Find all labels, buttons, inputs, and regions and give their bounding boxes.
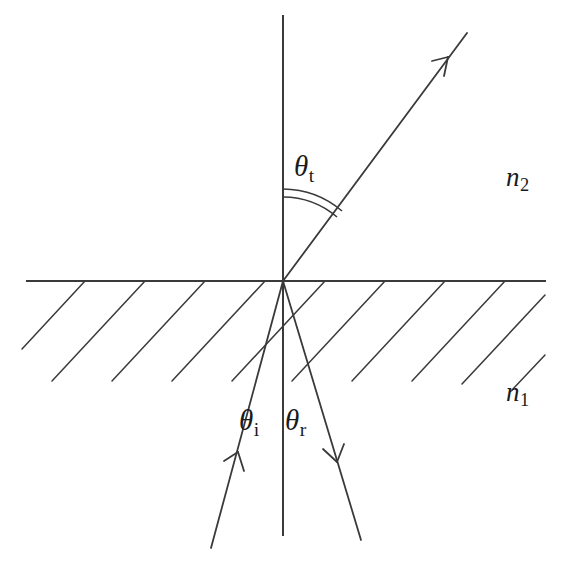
n1-subscript: 1 bbox=[520, 390, 530, 410]
label-theta-i: θi bbox=[239, 406, 259, 439]
hatch-line bbox=[22, 281, 85, 349]
hatch-line bbox=[292, 281, 385, 381]
hatch-line bbox=[412, 281, 505, 381]
label-theta-r: θr bbox=[285, 406, 306, 439]
n2-subscript: 2 bbox=[520, 175, 530, 195]
theta-t-subscript: t bbox=[308, 164, 314, 186]
hatch-line bbox=[52, 281, 145, 381]
theta-r-subscript: r bbox=[299, 418, 306, 440]
diagram-canvas bbox=[0, 0, 566, 564]
transmitted-ray-arrow-icon bbox=[432, 57, 448, 76]
theta-t-arc-outer bbox=[283, 189, 342, 211]
hatch-line bbox=[172, 281, 265, 381]
theta-t-arc-inner bbox=[283, 197, 337, 217]
hatch-line bbox=[352, 281, 445, 381]
n1-symbol: n bbox=[506, 377, 520, 407]
hatch-line bbox=[112, 281, 205, 381]
optics-diagram: θt θi θr n2 n1 bbox=[0, 0, 566, 564]
theta-i-subscript: i bbox=[253, 418, 259, 440]
hatch-line bbox=[462, 295, 545, 384]
theta-i-symbol: θ bbox=[239, 404, 253, 436]
n2-symbol: n bbox=[506, 162, 520, 192]
label-theta-t: θt bbox=[294, 152, 314, 185]
label-refractive-index-n2: n2 bbox=[506, 164, 529, 195]
theta-t-symbol: θ bbox=[294, 150, 308, 182]
theta-r-symbol: θ bbox=[285, 404, 299, 436]
label-refractive-index-n1: n1 bbox=[506, 379, 529, 410]
